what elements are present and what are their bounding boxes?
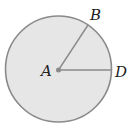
circle-diagram: A B D xyxy=(0,0,130,126)
label-d: D xyxy=(114,63,127,81)
label-b: B xyxy=(89,6,101,24)
center-point xyxy=(56,68,61,73)
label-a: A xyxy=(39,62,52,80)
